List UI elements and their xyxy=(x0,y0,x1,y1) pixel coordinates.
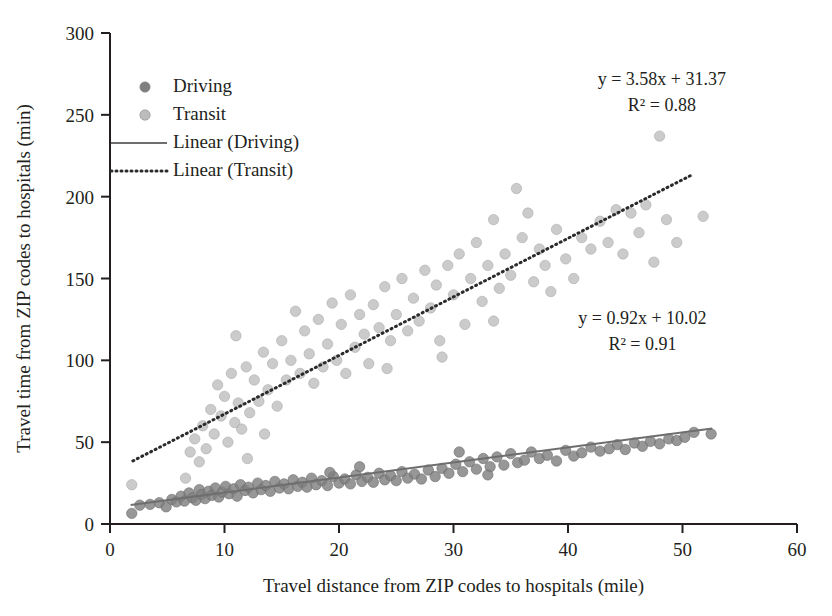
transit-data-point xyxy=(471,237,481,247)
transit-data-point xyxy=(523,208,533,218)
transit-data-point xyxy=(286,355,296,365)
transit-data-point xyxy=(194,457,204,467)
driving-equation-line-1: y = 0.92x + 10.02 xyxy=(578,308,706,328)
transit-data-point xyxy=(460,319,470,329)
transit-data-point xyxy=(403,326,413,336)
driving-trendline xyxy=(131,428,713,504)
transit-data-point xyxy=(661,214,671,224)
driving-data-point xyxy=(416,474,426,484)
scatter-chart: 050100150200250300 Travel time from ZIP … xyxy=(0,0,832,616)
transit-data-point xyxy=(374,322,384,332)
transit-data-point xyxy=(506,270,516,280)
transit-data-point xyxy=(231,331,241,341)
transit-data-point xyxy=(511,183,521,193)
transit-data-point xyxy=(437,352,447,362)
driving-data-point xyxy=(551,456,561,466)
y-tick-label: 300 xyxy=(66,23,95,44)
transit-data-point xyxy=(551,224,561,234)
chart-canvas: 050100150200250300 Travel time from ZIP … xyxy=(0,0,832,616)
y-tick-label: 100 xyxy=(66,350,95,371)
transit-data-point xyxy=(327,298,337,308)
transit-data-point xyxy=(420,265,430,275)
legend-marker-transit xyxy=(140,110,150,120)
transit-data-point xyxy=(540,260,550,270)
driving-equation-line-2: R² = 0.91 xyxy=(608,334,676,354)
transit-data-point xyxy=(209,429,219,439)
y-tick-label: 150 xyxy=(66,269,95,290)
transit-data-point xyxy=(517,232,527,242)
transit-data-point xyxy=(483,260,493,270)
transit-data-point xyxy=(226,368,236,378)
driving-data-point xyxy=(499,460,509,470)
x-tick-label: 50 xyxy=(673,539,692,560)
transit-data-point xyxy=(528,277,538,287)
transit-data-point xyxy=(586,244,596,254)
transit-data-point xyxy=(322,339,332,349)
legend-marker-driving xyxy=(140,82,150,92)
transit-data-point xyxy=(654,131,664,141)
driving-data-point xyxy=(430,471,440,481)
legend-label-driving: Driving xyxy=(173,75,233,96)
legend-label-linear-transit: Linear (Transit) xyxy=(173,159,293,181)
driving-data-point xyxy=(457,466,467,476)
transit-equation-line-1: y = 3.58x + 31.37 xyxy=(598,69,726,89)
x-axis-title: Travel distance from ZIP codes to hospit… xyxy=(263,575,644,597)
transit-data-point xyxy=(212,380,222,390)
x-tick-label: 20 xyxy=(330,539,349,560)
transit-data-point xyxy=(618,249,628,259)
transit-data-point xyxy=(345,290,355,300)
transit-data-point xyxy=(465,273,475,283)
transit-data-point xyxy=(569,273,579,283)
transit-data-point xyxy=(242,453,252,463)
transit-data-point xyxy=(190,434,200,444)
transit-data-point xyxy=(382,363,392,373)
y-axis: 050100150200250300 Travel time from ZIP … xyxy=(13,23,110,535)
driving-data-point xyxy=(354,462,364,472)
transit-data-point xyxy=(336,319,346,329)
y-tick-group: 050100150200250300 xyxy=(66,23,111,535)
driving-data-point xyxy=(577,448,587,458)
legend-label-linear-driving: Linear (Driving) xyxy=(173,131,299,153)
transit-data-point xyxy=(408,293,418,303)
y-tick-label: 50 xyxy=(75,432,94,453)
driving-data-point xyxy=(519,455,529,465)
x-tick-label: 0 xyxy=(105,539,115,560)
x-tick-label: 60 xyxy=(788,539,807,560)
transit-data-point xyxy=(385,335,395,345)
transit-data-point xyxy=(603,237,613,247)
transit-data-point xyxy=(219,391,229,401)
transit-data-point xyxy=(272,401,282,411)
driving-data-point xyxy=(135,500,145,510)
transit-data-point xyxy=(249,375,259,385)
transit-data-point xyxy=(368,299,378,309)
chart-legend: DrivingTransitLinear (Driving)Linear (Tr… xyxy=(111,75,299,181)
transit-data-point xyxy=(672,237,682,247)
transit-equation-line-2: R² = 0.88 xyxy=(628,95,696,115)
x-tick-label: 30 xyxy=(444,539,463,560)
transit-data-point xyxy=(258,347,268,357)
driving-data-point xyxy=(706,429,716,439)
transit-data-point xyxy=(488,316,498,326)
transit-data-point xyxy=(201,444,211,454)
transit-data-point xyxy=(290,306,300,316)
driving-data-point xyxy=(595,446,605,456)
transit-data-point xyxy=(391,309,401,319)
transit-data-point xyxy=(127,480,137,490)
y-tick-label: 250 xyxy=(66,105,95,126)
transit-data-point xyxy=(259,429,269,439)
transit-data-point xyxy=(364,358,374,368)
driving-data-point xyxy=(471,464,481,474)
x-tick-label: 10 xyxy=(215,539,234,560)
transit-data-point xyxy=(304,349,314,359)
driving-points-group xyxy=(127,427,717,518)
driving-data-point xyxy=(345,479,355,489)
driving-data-point xyxy=(322,480,332,490)
transit-data-point xyxy=(354,309,364,319)
x-tick-label: 40 xyxy=(559,539,578,560)
driving-data-point xyxy=(127,508,137,518)
driving-data-point xyxy=(368,477,378,487)
x-tick-group: 0102030405060 xyxy=(105,524,806,560)
transit-data-point xyxy=(561,254,571,264)
driving-data-point xyxy=(444,468,454,478)
transit-data-point xyxy=(241,362,251,372)
